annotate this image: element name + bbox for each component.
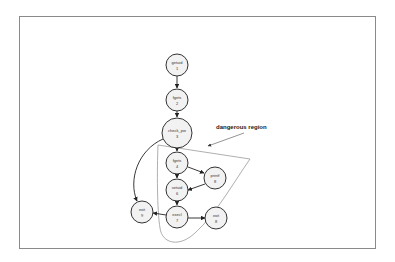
- control-flow-graph: dangerous region getuid 1 fgets 2 check_…: [0, 0, 395, 262]
- edge-printf-setuid: [188, 184, 205, 190]
- svg-text:fgets: fgets: [173, 95, 182, 100]
- edge-checkpw-exit9: [134, 139, 163, 201]
- svg-text:printf: printf: [211, 173, 221, 178]
- node-exit-9: exit 9: [131, 201, 153, 223]
- node-fgets-2: fgets 2: [166, 89, 188, 111]
- svg-text:getuid: getuid: [172, 60, 183, 65]
- node-exit-8: exit 8: [205, 207, 227, 229]
- node-getuid-1: getuid 1: [166, 54, 188, 76]
- dangerous-region-label: dangerous region: [216, 124, 267, 130]
- svg-text:check_pw: check_pw: [168, 128, 186, 133]
- svg-text:exit: exit: [213, 213, 220, 218]
- node-execl-7: execl 7: [166, 206, 188, 228]
- node-check-pw-3: check_pw 3: [162, 118, 192, 148]
- node-fgets-4: fgets 4: [166, 152, 188, 174]
- edge-fgets4-printf: [188, 167, 204, 173]
- svg-text:setuid: setuid: [172, 185, 183, 190]
- svg-text:exit: exit: [139, 207, 146, 212]
- edge-execl-exit9: [153, 213, 166, 215]
- node-printf-8: printf 8: [204, 167, 226, 189]
- svg-text:fgets: fgets: [173, 158, 182, 163]
- svg-text:execl: execl: [172, 212, 181, 217]
- node-setuid-6: setuid 6: [166, 179, 188, 201]
- annotation-pointer: [208, 133, 244, 146]
